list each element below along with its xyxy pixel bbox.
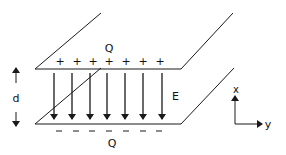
bottom-plate [35, 68, 234, 124]
svg-text:+: + [138, 55, 147, 68]
svg-text:+: + [155, 55, 164, 68]
diagram-canvas: + + + + + + + Q Q E d [0, 0, 286, 155]
x-axis-label: x [233, 84, 239, 95]
coordinate-axes [235, 96, 262, 124]
svg-text:+: + [121, 55, 130, 68]
field-label: E [172, 90, 179, 103]
electric-field-arrows [54, 73, 162, 119]
svg-text:+: + [72, 55, 81, 68]
svg-text:+: + [104, 55, 113, 68]
positive-charges: + + + + + + + [55, 55, 164, 68]
svg-text:+: + [55, 55, 64, 68]
bottom-charge-label: Q [108, 137, 117, 150]
capacitor-diagram: + + + + + + + Q Q E d [0, 0, 286, 155]
svg-text:+: + [88, 55, 97, 68]
y-axis-label: y [265, 118, 272, 131]
separation-label: d [13, 92, 20, 105]
top-charge-label: Q [105, 42, 114, 55]
top-plate [35, 13, 233, 69]
